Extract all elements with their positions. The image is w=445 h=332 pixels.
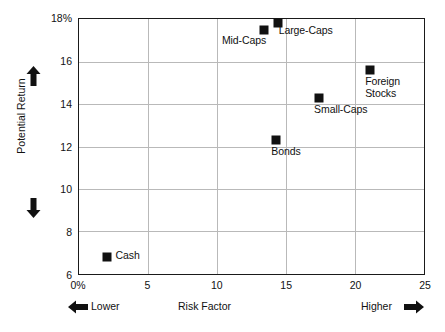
data-point-marker <box>315 93 324 102</box>
x-axis-title: Risk Factor <box>178 300 231 312</box>
y-tick-label: 18% <box>51 12 72 24</box>
data-point-marker <box>272 136 281 145</box>
gridline-horizontal <box>79 189 424 190</box>
gridline-horizontal <box>79 231 424 232</box>
y-tick-label: 12 <box>60 141 72 153</box>
data-point-marker <box>259 25 268 34</box>
gridline-horizontal <box>79 62 424 63</box>
data-point-label: Bonds <box>271 146 300 158</box>
y-tick-label: 8 <box>66 226 72 238</box>
x-axis-lower-annotation: Lower <box>91 300 120 312</box>
y-axis-tick-labels: 18% 16 14 12 10 8 6 <box>38 18 72 275</box>
left-arrow-icon <box>68 300 88 318</box>
x-tick-label: 20 <box>350 279 362 291</box>
gridline-vertical <box>148 19 149 274</box>
right-arrow-icon <box>404 300 424 318</box>
gridline-vertical <box>217 19 218 274</box>
y-tick-label: 14 <box>60 98 72 110</box>
data-point-label: Large-Caps <box>279 25 333 37</box>
x-tick-label: 15 <box>280 279 292 291</box>
plot-area: CashBondsSmall-CapsForeign StocksMid-Cap… <box>78 18 425 275</box>
data-point-label: Mid-Caps <box>222 35 266 47</box>
x-tick-label: 0% <box>70 279 85 291</box>
y-tick-label: 16 <box>60 55 72 67</box>
x-tick-label: 5 <box>144 279 150 291</box>
gridline-horizontal <box>79 104 424 105</box>
x-tick-label: 25 <box>419 279 431 291</box>
data-point-label: Cash <box>116 250 140 262</box>
data-point-marker <box>102 253 111 262</box>
x-axis-higher-annotation: Higher <box>361 300 392 312</box>
x-axis-tick-labels: 0% 5 10 15 20 25 <box>78 279 425 295</box>
data-point-label: Foreign Stocks <box>365 76 400 100</box>
data-point-label: Small-Caps <box>314 104 367 116</box>
x-tick-label: 10 <box>211 279 223 291</box>
gridline-vertical <box>355 19 356 274</box>
y-tick-label: 10 <box>60 183 72 195</box>
data-point-marker <box>366 66 375 75</box>
risk-return-scatter-chart: Potential Return 18% 16 14 12 10 8 6 Cas… <box>0 0 445 332</box>
y-axis-title: Potential Return <box>15 64 27 168</box>
gridline-horizontal <box>79 147 424 148</box>
